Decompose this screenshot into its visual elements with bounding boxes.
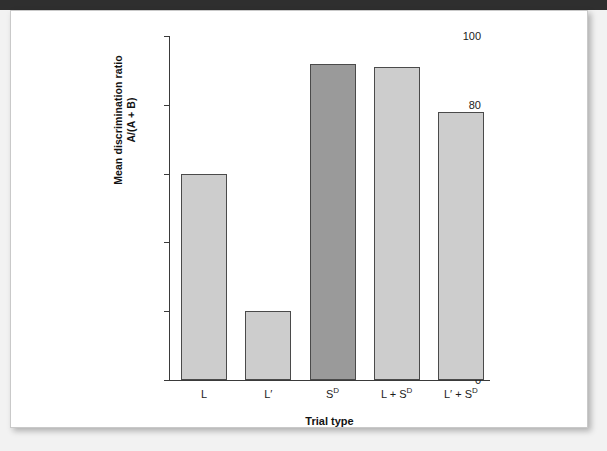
y-axis-tick	[164, 36, 169, 37]
y-axis-title: Mean discrimination ratio A/(A + B)	[112, 20, 138, 220]
y-axis-tick-label: 100	[463, 30, 481, 42]
y-axis-title-line2: A/(A + B)	[125, 20, 138, 220]
screenshot-root: Mean discrimination ratio A/(A + B) 0204…	[0, 0, 607, 451]
bar-2	[245, 311, 291, 380]
x-axis-title: Trial type	[169, 415, 490, 427]
bar-3	[310, 64, 356, 380]
y-axis-tick	[164, 380, 169, 381]
bar-5	[438, 112, 484, 380]
scan-top-band	[0, 0, 607, 10]
y-axis-title-line1: Mean discrimination ratio	[112, 20, 125, 220]
bar-chart-figure: Mean discrimination ratio A/(A + B) 0204…	[11, 11, 589, 429]
y-axis-tick	[164, 242, 169, 243]
y-axis-tick	[164, 105, 169, 106]
document-page: Mean discrimination ratio A/(A + B) 0204…	[10, 10, 588, 428]
y-axis-tick	[164, 311, 169, 312]
x-axis-tick-label: SD	[326, 388, 339, 400]
x-axis-tick-label: L′ + SD	[444, 388, 478, 400]
x-axis-tick-label: L	[201, 388, 207, 400]
bar-1	[181, 174, 227, 380]
bar-4	[374, 67, 420, 380]
x-axis-tick-label: L + SD	[381, 388, 412, 400]
x-axis-tick-label: L′	[264, 388, 272, 400]
x-axis-line	[169, 380, 490, 381]
plot-area: 020406080100	[169, 36, 490, 380]
y-axis-line	[169, 36, 170, 381]
y-axis-tick	[164, 174, 169, 175]
y-axis-tick-label: 80	[469, 99, 481, 111]
